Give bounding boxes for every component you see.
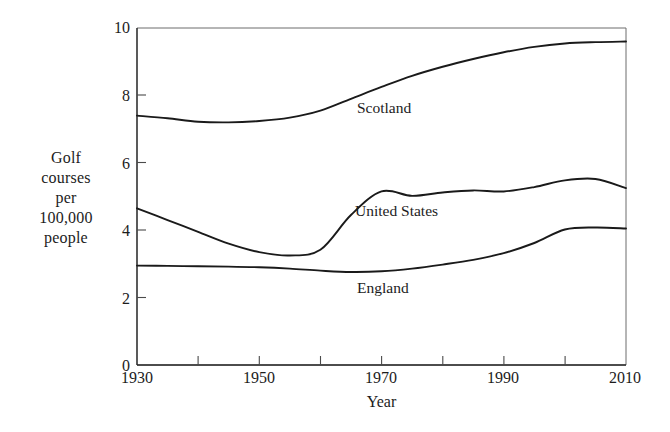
chart-figure: Golf courses per 100,000 people 0 2 4 6 …	[0, 0, 670, 432]
series-label-scotland: Scotland	[357, 99, 411, 117]
series-label-england: England	[357, 279, 409, 297]
series-paths	[137, 41, 626, 272]
y-axis-ticks	[137, 95, 146, 298]
plot-canvas	[0, 0, 670, 432]
axis-frame	[137, 28, 626, 365]
series-label-united-states: United States	[355, 202, 438, 220]
series-line-england	[137, 227, 626, 272]
x-axis-ticks	[198, 356, 565, 365]
